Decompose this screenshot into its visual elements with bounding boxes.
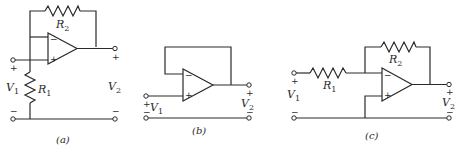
r2-label: R2: [55, 18, 69, 33]
v1-label: V1: [287, 88, 300, 103]
input-minus-sign: −: [291, 107, 299, 117]
wire: [30, 11, 45, 37]
r1-label: R1: [322, 79, 336, 94]
r1-label: R1: [37, 83, 51, 98]
wire: [80, 11, 96, 47]
output-plus-sign: +: [112, 52, 120, 62]
v1-label: V1: [6, 81, 19, 96]
noninverting-input-sign: +: [384, 90, 392, 100]
panel-a-noninverting-amplifier: R2 − + R1 + − + − V1 V2 (a): [6, 6, 121, 145]
panel-b-voltage-follower: − + + − + − V1 V2 (b): [143, 47, 254, 136]
input-ground-terminal: [11, 117, 15, 121]
input-terminal: [144, 94, 148, 98]
resistor-r2: [45, 6, 80, 16]
resistor-r1: [25, 72, 35, 103]
v2-label: V2: [108, 80, 121, 95]
inverting-input-sign: −: [185, 70, 193, 80]
inverting-input-sign: −: [50, 34, 58, 44]
caption-a: (a): [56, 134, 70, 145]
resistor-r2: [381, 42, 416, 52]
wire: [416, 47, 430, 84]
r2-label: R2: [388, 53, 402, 68]
input-plus-sign: +: [291, 76, 299, 86]
input-plus-sign: +: [10, 63, 18, 73]
input-minus-sign: −: [10, 106, 18, 116]
opamp-circuits-figure: R2 − + R1 + − + − V1 V2 (a): [0, 0, 460, 153]
v2-label: V2: [241, 97, 254, 112]
output-ground-terminal: [113, 117, 117, 121]
v1-label: V1: [150, 101, 163, 116]
caption-c: (c): [365, 130, 379, 141]
wire: [365, 96, 382, 118]
inverting-input-sign: −: [384, 70, 392, 80]
resistor-r1: [310, 68, 346, 78]
caption-b: (b): [192, 125, 206, 136]
output-terminal: [247, 83, 251, 87]
wire: [365, 47, 381, 73]
input-terminal: [11, 58, 15, 62]
v2-label: V2: [442, 96, 455, 111]
noninverting-input-sign: +: [185, 90, 193, 100]
output-terminal: [113, 46, 117, 50]
panel-c-inverting-amplifier: R1 R2 − + + − + − V1 V2 (c): [287, 42, 455, 141]
noninverting-input-sign: +: [50, 54, 58, 64]
input-terminal: [292, 71, 296, 75]
output-minus-sign: −: [112, 106, 120, 116]
